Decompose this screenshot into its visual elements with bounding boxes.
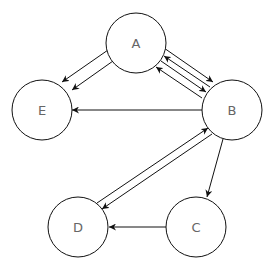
node-c-label: C <box>191 220 200 235</box>
node-e-label: E <box>38 103 46 118</box>
edge-a-to-e-1 <box>62 50 108 82</box>
node-c: C <box>166 197 226 257</box>
node-e: E <box>12 80 72 140</box>
edge-a-to-b-2 <box>161 61 206 92</box>
edge-d-to-b <box>97 128 208 203</box>
node-d-label: D <box>73 220 83 235</box>
node-b-label: B <box>228 103 237 118</box>
edge-a-to-e-2 <box>72 61 113 90</box>
node-d: D <box>48 197 108 257</box>
node-b: B <box>202 80 262 140</box>
edge-b-to-a-1 <box>164 56 210 87</box>
node-a-label: A <box>132 36 141 51</box>
node-a: A <box>106 13 166 73</box>
edge-b-to-c <box>207 139 223 197</box>
graph-diagram: A B E D C <box>0 0 274 264</box>
edge-b-to-a-2 <box>156 67 202 98</box>
